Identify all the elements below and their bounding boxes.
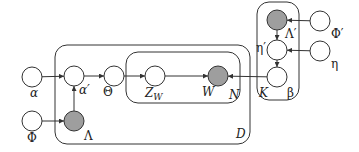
node-eta-prime <box>267 40 287 60</box>
node-z-w <box>145 66 165 86</box>
edge-beta-to-w <box>228 76 267 77</box>
node-lambda <box>64 111 84 131</box>
label-phi: Φ <box>27 131 37 145</box>
label-alpha: α <box>30 86 38 100</box>
plate-d-label: D <box>235 127 246 141</box>
node-w <box>208 66 228 86</box>
label-theta: Θ <box>103 85 113 99</box>
label-w: W <box>202 85 216 99</box>
label-eta-prime: η′ <box>256 41 266 55</box>
node-eta <box>310 41 330 61</box>
label-lambda-prime: Λ′ <box>284 27 297 41</box>
label-beta: β <box>287 86 294 100</box>
plate-k-label: K <box>258 86 269 100</box>
node-beta <box>267 67 287 87</box>
node-phi <box>22 111 42 131</box>
node-lambda-prime <box>267 10 287 30</box>
label-phi-prime: Φ′ <box>331 27 344 41</box>
edge-alpha-to-alpha_prime <box>42 76 64 77</box>
label-lambda: Λ <box>83 129 93 143</box>
node-phi-prime <box>310 11 330 31</box>
edge-phi_prime-to-lambda_prime <box>287 20 310 21</box>
label-eta: η <box>331 57 338 71</box>
edge-eta-to-eta_prime <box>287 50 310 51</box>
plate-n-label: N <box>228 88 240 102</box>
label-alpha-prime: α′ <box>79 83 90 97</box>
label-z-w: ZW <box>144 86 163 102</box>
node-alpha <box>22 67 42 87</box>
graphical-model-diagram: DNKαΦα′ΛΘZWWΛ′η′βΦ′η <box>0 0 359 152</box>
node-theta <box>104 66 124 86</box>
